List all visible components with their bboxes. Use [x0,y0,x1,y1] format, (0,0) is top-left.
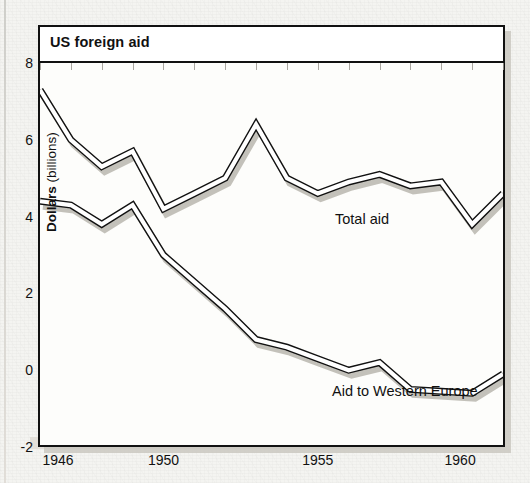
y-tick-label: 0 [25,362,33,378]
x-tick-label: 1946 [42,452,73,468]
x-tick-label: 1955 [302,452,333,468]
y-axis-title: Dollars (billions) [44,132,59,232]
series-outline-0 [40,90,503,224]
y-axis-tick-labels: -202468 [0,25,33,447]
y-tick-label: 8 [25,55,33,71]
y-tick-label: 6 [25,132,33,148]
chart-title: US foreign aid [50,34,150,50]
y-tick-label: 4 [25,209,33,225]
series-label-western-europe: Aid to Western Europe [332,383,478,399]
x-tick-label: 1960 [445,452,476,468]
y-axis-title-bold: Dollars [44,186,59,232]
plot-area: Total aid Aid to Western Europe [40,63,503,445]
y-tick-label: 2 [25,285,33,301]
chart-figure: US foreign aid Total aid Aid to Western … [0,0,530,483]
series-shadow-1 [43,206,503,398]
chart-plot-box: US foreign aid Total aid Aid to Western … [38,25,505,447]
x-tick-mark [503,63,504,70]
y-axis-title-rest: (billions) [44,132,59,186]
series-label-total-aid: Total aid [335,211,389,227]
chart-title-band: US foreign aid [40,27,503,63]
x-axis-tick-labels: 1946195019551960 [0,452,530,472]
x-tick-label: 1950 [148,452,179,468]
